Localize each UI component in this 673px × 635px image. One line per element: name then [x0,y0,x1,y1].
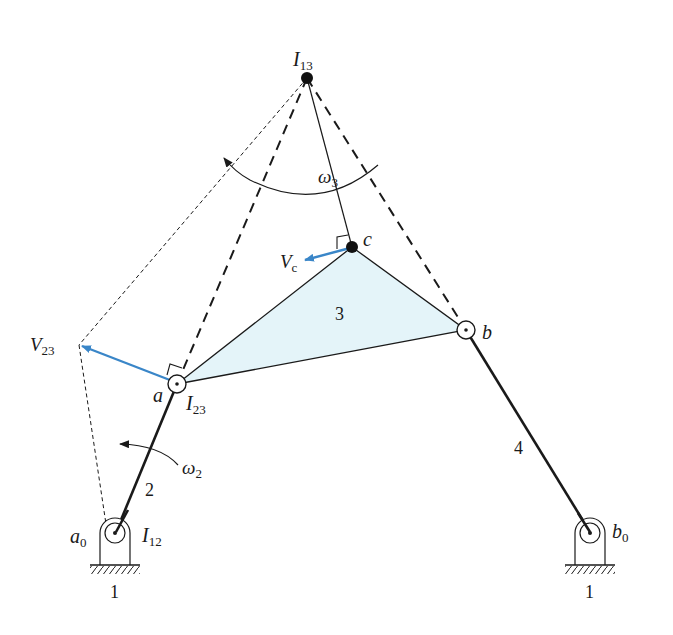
label-ground-right: 1 [585,582,594,602]
label-a0: a0 [70,525,87,550]
coupler-link-3 [177,247,466,384]
label-ground-left: 1 [110,582,119,602]
ground-pivot-b0 [565,518,615,574]
label-link-2: 2 [145,480,154,500]
label-I12: I12 [141,524,162,549]
velocity-arrow-V23 [82,346,175,382]
rocker-link-4 [466,330,590,532]
label-a: a [153,384,163,406]
label-I13: I13 [292,48,313,73]
point-I13 [301,72,313,84]
label-omega3: ω3 [318,166,338,190]
joint-a [168,375,186,393]
label-b0: b0 [612,520,629,545]
label-link-4: 4 [514,438,523,458]
crank-link-2 [116,384,177,532]
point-c [346,241,358,253]
line-I13-c [307,78,352,247]
label-V23: V23 [30,334,55,358]
joint-b [457,321,475,339]
label-b: b [482,321,492,343]
omega3-arc-arrow-icon [224,158,378,194]
label-I23: I23 [185,392,206,417]
label-c: c [363,228,372,250]
label-link-3: 3 [335,304,344,324]
construction-line-V23-a0 [79,345,106,524]
label-omega2: ω2 [182,457,202,481]
ground-pivot-a0 [90,518,140,574]
construction-line-I13-V23 [79,78,307,345]
label-Vc: Vc [280,251,298,275]
linkage-diagram: I13 ω3 c Vc 3 b V23 a I23 ω2 2 4 a0 I12 … [0,0,673,635]
right-angle-marker-a [167,364,182,375]
